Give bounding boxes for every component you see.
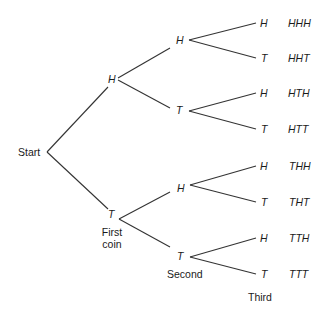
node-first-H: H	[108, 73, 116, 85]
outcome-4: HTT	[288, 123, 308, 135]
edge-T-TH	[119, 192, 170, 219]
edge-TH-THT	[190, 185, 256, 202]
level-label-first-coin-text: First coin	[96, 226, 128, 250]
node-third-6: T	[261, 196, 267, 208]
edge-H-HH	[118, 48, 170, 78]
outcome-5: THH	[289, 160, 311, 172]
outcome-7: TTH	[289, 232, 309, 244]
edge-HH-HHH	[189, 23, 256, 40]
level-label-second: Second	[167, 268, 203, 280]
node-third-8: T	[261, 268, 267, 280]
node-second-TT: T	[177, 250, 183, 262]
edge-HT-HTT	[189, 111, 256, 129]
edge-HT-HTH	[189, 93, 256, 111]
node-third-1: H	[260, 17, 268, 29]
outcome-6: THT	[289, 196, 309, 208]
node-second-TH: H	[177, 182, 185, 194]
edge-start-T	[47, 152, 108, 209]
edge-H-HT	[118, 80, 170, 108]
node-third-7: H	[260, 232, 268, 244]
node-third-4: T	[261, 123, 267, 135]
start-label: Start	[18, 146, 40, 158]
outcome-3: HTH	[288, 87, 310, 99]
level-label-third: Third	[248, 291, 272, 303]
outcome-8: TTT	[289, 268, 308, 280]
level-label-first-coin: First coin	[96, 226, 128, 250]
edge-HH-HHT	[189, 40, 256, 58]
edge-TT-TTH	[190, 238, 256, 257]
node-third-2: T	[261, 52, 267, 64]
node-second-HH: H	[176, 34, 184, 46]
node-third-3: H	[260, 87, 268, 99]
edge-TH-THH	[190, 166, 256, 185]
outcome-2: HHT	[288, 52, 310, 64]
tree-edges	[0, 0, 327, 316]
node-first-T: T	[108, 208, 114, 220]
outcome-1: HHH	[288, 17, 311, 29]
node-second-HT: T	[176, 104, 182, 116]
node-third-5: H	[260, 160, 268, 172]
edge-start-H	[47, 87, 108, 152]
